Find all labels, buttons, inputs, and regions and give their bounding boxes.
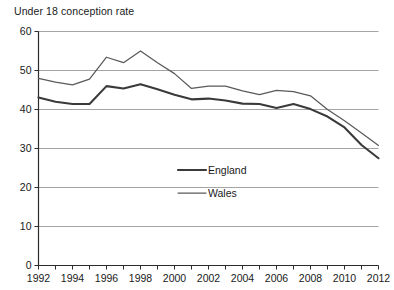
x-axis-tick-label: 2008 xyxy=(299,272,323,284)
x-axis-tick-label: 2010 xyxy=(333,272,357,284)
y-axis-tick-labels: 0102030405060 xyxy=(20,25,32,271)
legend-label-england: England xyxy=(208,164,247,176)
x-axis-tick-label: 2006 xyxy=(265,272,289,284)
y-axis-tick-label: 30 xyxy=(20,142,32,154)
y-axis-tick-label: 10 xyxy=(20,220,32,232)
x-axis-tick-label: 2012 xyxy=(367,272,391,284)
y-axis-tick-label: 50 xyxy=(20,64,32,76)
x-axis-tick-label: 2000 xyxy=(163,272,187,284)
y-axis-tick-label: 20 xyxy=(20,181,32,193)
x-axis-tick-label: 1994 xyxy=(61,272,85,284)
legend-label-wales: Wales xyxy=(208,187,237,199)
y-axis-tick-label: 0 xyxy=(26,259,32,271)
x-axis-tick-labels: 1992199419961998200020022004200620082010… xyxy=(27,272,391,284)
chart-legend: England Wales xyxy=(178,164,247,199)
chart-container: Under 18 conception rate 0102030405060 1… xyxy=(0,0,394,290)
y-axis-tick-label: 40 xyxy=(20,103,32,115)
line-chart-plot: 0102030405060 19921994199619982000200220… xyxy=(0,0,394,290)
y-axis-tick-label: 60 xyxy=(20,25,32,37)
series-line-england xyxy=(39,84,379,158)
x-axis-tick-label: 2002 xyxy=(197,272,221,284)
x-axis-tick-label: 1996 xyxy=(95,272,119,284)
x-axis-tick-label: 1998 xyxy=(129,272,153,284)
x-axis-tick-label: 2004 xyxy=(231,272,255,284)
x-axis-tick-label: 1992 xyxy=(27,272,51,284)
